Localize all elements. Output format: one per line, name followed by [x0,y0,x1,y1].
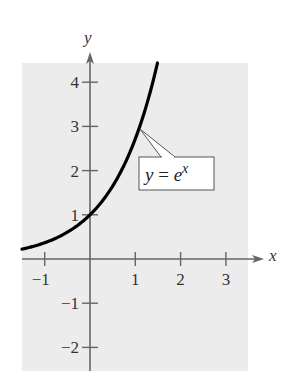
y-tick-label: 1 [71,206,80,225]
x-tick-label: 1 [131,270,140,289]
y-tick-label: −2 [61,338,79,357]
x-axis-label: x [268,246,277,265]
y-tick-label: 3 [71,117,80,136]
y-tick-label: −1 [61,294,79,313]
plot-area-background [22,63,248,371]
y-axis-label: y [82,28,92,47]
exponential-chart: −11234321−1−2 y = ex x y [0,0,287,391]
x-tick-label: 3 [222,270,231,289]
x-tick-label: −1 [32,270,50,289]
x-tick-label: 2 [176,270,185,289]
y-tick-label: 2 [71,162,80,181]
y-tick-label: 4 [71,73,80,92]
